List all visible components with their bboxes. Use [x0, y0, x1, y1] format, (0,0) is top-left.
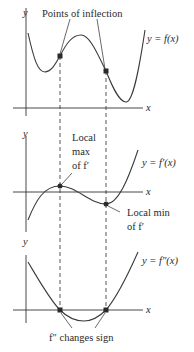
annotation-changes-sign: f″ changes sign	[49, 332, 114, 343]
f-double-prime-curve	[28, 252, 138, 321]
annotation-max-1: Local	[72, 132, 96, 143]
x-axis-label: x	[145, 102, 151, 113]
inflection-point-1	[58, 54, 63, 59]
panel-f-double-prime: y y = f″(x) x f″ changes sign	[13, 236, 178, 343]
annotation-min-2: of f′	[127, 221, 144, 232]
x-axis-label: x	[145, 304, 151, 315]
local-max-point	[58, 184, 63, 189]
leader-line-max	[62, 173, 72, 184]
local-min-point	[104, 202, 109, 207]
curve-label-f: y = f(x)	[146, 33, 179, 45]
y-axis-label: y	[22, 128, 28, 139]
annotation-inflection: Points of inflection	[42, 8, 123, 19]
leader-line-min	[108, 206, 120, 212]
panel-f-prime: y Local max of f′ y = f′(x) x Local min …	[13, 128, 176, 232]
y-axis-label: y	[22, 236, 28, 247]
f-curve	[28, 30, 145, 102]
zero-point-1	[58, 308, 63, 313]
leader-line-1	[60, 19, 70, 54]
x-axis-label: x	[145, 186, 151, 197]
annotation-max-2: max	[72, 146, 91, 157]
zero-point-2	[104, 308, 109, 313]
annotation-min-1: Local min	[127, 207, 171, 218]
inflection-diagram: y Points of inflection y = f(x) x y Loca…	[0, 0, 194, 352]
curve-label-f-double-prime: y = f″(x)	[141, 255, 178, 267]
inflection-point-2	[104, 69, 109, 74]
annotation-max-3: of f′	[72, 160, 89, 171]
y-axis-label: y	[22, 7, 28, 18]
panel-f: y Points of inflection y = f(x) x	[13, 7, 179, 116]
dashed-guides	[60, 56, 106, 310]
curve-label-f-prime: y = f′(x)	[141, 157, 176, 169]
